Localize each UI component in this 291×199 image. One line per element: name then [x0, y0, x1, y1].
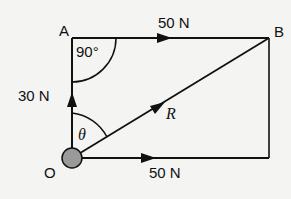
label-resultant: R [165, 105, 176, 122]
label-force-bottom: 50 N [149, 164, 181, 181]
label-right-angle: 90° [76, 43, 99, 60]
label-B: B [274, 23, 284, 40]
label-theta: θ [78, 126, 86, 143]
arrow-up-icon [67, 92, 77, 107]
pivot-icon [62, 148, 82, 168]
arrow-right-top-icon [157, 33, 172, 43]
label-force-vertical: 30 N [18, 87, 50, 104]
arrow-right-bottom-icon [141, 153, 156, 163]
arrow-resultant-icon [150, 102, 165, 114]
label-A: A [59, 22, 69, 39]
force-diagram: A B O 50 N 30 N 50 N R 90° θ [0, 0, 291, 199]
label-O: O [44, 164, 56, 181]
resultant-line [72, 38, 269, 158]
label-force-top: 50 N [158, 14, 190, 31]
